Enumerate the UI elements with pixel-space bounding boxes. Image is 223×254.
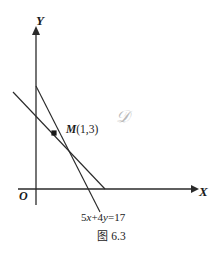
figure-caption: 图 6.3 [0,231,223,243]
figure-caption-number: 6.3 [111,230,125,242]
figure-caption-prefix: 图 [97,230,108,243]
x-axis-label: X [199,185,208,198]
constraint-line-5x-4y-17 [36,86,100,212]
y-axis-label: Y [36,14,44,27]
figure-6-3: Y X O M(1,3) 𝒟 5x+4y=17 图 6.3 [0,0,223,254]
constraint-line-secondary [13,92,105,189]
x-axis-arrow-icon [191,185,199,193]
point-label-m-coords: (1,3) [76,123,98,135]
point-label-m-name: M [66,123,76,135]
origin-label: O [19,190,28,202]
region-label-d: 𝒟 [116,108,130,125]
equation-rhs: 17 [114,211,125,223]
point-marker-m [51,130,56,135]
line-equation-label: 5x+4y=17 [81,212,125,223]
point-label-m: M(1,3) [66,124,98,136]
